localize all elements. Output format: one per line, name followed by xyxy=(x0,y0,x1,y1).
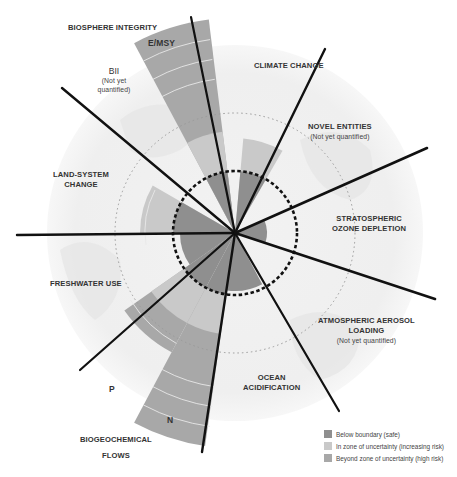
legend-label-uncertainty: In zone of uncertainty (increasing risk) xyxy=(336,443,444,450)
legend: Below boundary (safe) In zone of uncerta… xyxy=(324,428,444,464)
label-ozone-line1: STRATOSPHERIC xyxy=(332,214,406,224)
label-land-line2: CHANGE xyxy=(53,180,109,190)
label-bii: BII (Not yet quantified) xyxy=(94,66,134,94)
label-freshwater: FRESHWATER USE xyxy=(50,279,122,289)
label-novel-entities-title: NOVEL ENTITIES xyxy=(308,122,372,131)
legend-swatch-high-risk xyxy=(324,454,332,462)
label-bio-line1: BIOGEOCHEMICAL xyxy=(80,432,152,448)
label-biosphere-integrity: BIOSPHERE INTEGRITY xyxy=(68,23,157,33)
label-ozone: STRATOSPHERIC OZONE DEPLETION xyxy=(332,214,406,234)
label-ocean: OCEAN ACIDIFICATION xyxy=(243,373,300,393)
label-ocean-line2: ACIDIFICATION xyxy=(243,383,300,393)
label-ocean-line1: OCEAN xyxy=(243,373,300,383)
legend-swatch-safe xyxy=(324,430,332,438)
label-aerosol-sub: (Not yet quantified) xyxy=(318,336,415,345)
label-ozone-line2: OZONE DEPLETION xyxy=(332,224,406,234)
label-bii-title: BII xyxy=(109,66,120,76)
legend-swatch-uncertainty xyxy=(324,442,332,450)
label-aerosol-line1: ATMOSPHERIC AEROSOL xyxy=(318,316,415,326)
label-bii-sub: (Not yet quantified) xyxy=(94,76,134,94)
label-climate-change: CLIMATE CHANGE xyxy=(254,61,324,71)
label-n: N xyxy=(167,415,173,425)
label-novel-entities: NOVEL ENTITIES (Not yet quantified) xyxy=(308,122,372,141)
legend-label-safe: Below boundary (safe) xyxy=(336,431,400,438)
planetary-boundaries-diagram xyxy=(0,0,457,477)
legend-item-high-risk: Beyond zone of uncertainty (high risk) xyxy=(324,452,444,464)
label-aerosol-line2: LOADING xyxy=(318,326,415,336)
label-emsy: E/MSY xyxy=(148,38,175,48)
label-land-line1: LAND-SYSTEM xyxy=(53,170,109,180)
label-novel-entities-sub: (Not yet quantified) xyxy=(308,132,372,141)
legend-item-safe: Below boundary (safe) xyxy=(324,428,444,440)
legend-label-high-risk: Beyond zone of uncertainty (high risk) xyxy=(336,455,443,462)
label-bio-line2: FLOWS xyxy=(80,448,152,464)
label-land-system: LAND-SYSTEM CHANGE xyxy=(53,170,109,190)
label-biogeochemical: BIOGEOCHEMICAL FLOWS xyxy=(80,432,152,464)
label-p: P xyxy=(109,384,115,394)
label-aerosol: ATMOSPHERIC AEROSOL LOADING (Not yet qua… xyxy=(318,316,415,345)
legend-item-uncertainty: In zone of uncertainty (increasing risk) xyxy=(324,440,444,452)
